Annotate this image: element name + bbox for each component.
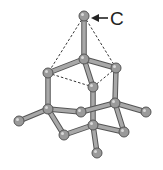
atom-highlight (81, 56, 84, 59)
atom-a4 (88, 82, 98, 92)
atom-a2 (43, 68, 53, 78)
atom-c_top (79, 11, 89, 21)
carbon-label: C (110, 8, 124, 29)
atom-highlight (16, 118, 19, 121)
atom-highlight (81, 13, 84, 16)
bond (48, 59, 84, 73)
atom-highlight (45, 106, 48, 109)
atom-a1 (79, 54, 89, 64)
atom-highlight (90, 122, 93, 125)
molecule-svg: C (0, 0, 163, 170)
atom-a6 (76, 107, 86, 117)
atom-highlight (45, 70, 48, 73)
atom-a10 (88, 120, 98, 130)
atom-highlight (90, 84, 93, 87)
atom-a11 (59, 130, 69, 140)
arrow-left-icon (91, 14, 99, 22)
atom-highlight (121, 129, 124, 132)
atom-a7 (110, 98, 120, 108)
atom-a9 (141, 107, 151, 117)
atom-highlight (112, 100, 115, 103)
atom-a13 (92, 148, 102, 158)
atom-a3 (111, 63, 121, 73)
atom-highlight (78, 109, 81, 112)
dashed-line (48, 73, 93, 87)
atom-highlight (61, 132, 64, 135)
atom-highlight (94, 150, 97, 153)
atom-highlight (143, 109, 146, 112)
atom-a8 (14, 116, 24, 126)
c-label-arrow: C (91, 8, 124, 29)
atom-highlight (113, 65, 116, 68)
molecule-diagram: C (0, 0, 163, 170)
atom-a12 (119, 127, 129, 137)
atom-a5 (43, 104, 53, 114)
